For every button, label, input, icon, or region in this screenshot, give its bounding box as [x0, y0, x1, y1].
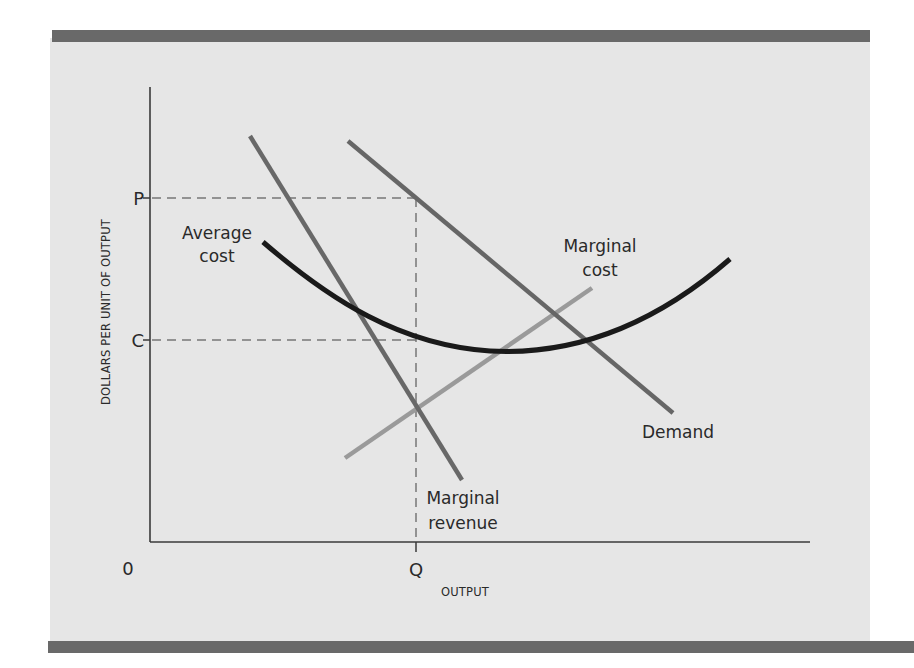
average-cost-label-line1: Average — [182, 223, 252, 243]
chart-panel-background — [50, 38, 870, 648]
economics-chart-figure: P C 0 Q OUTPUT DOLLARS PER UNIT OF OUTPU… — [0, 0, 914, 668]
x-tick-label-q: Q — [409, 559, 423, 580]
average-cost-label-line2: cost — [199, 246, 235, 266]
demand-label: Demand — [642, 422, 714, 442]
marginal-cost-label-line2: cost — [582, 260, 618, 280]
origin-label: 0 — [122, 558, 133, 579]
top-rule-bar — [52, 30, 870, 42]
marginal-cost-label-line1: Marginal — [563, 236, 636, 256]
bottom-rule-bar — [48, 641, 914, 653]
y-axis-title: DOLLARS PER UNIT OF OUTPUT — [99, 218, 113, 405]
marginal-revenue-label-line2: revenue — [428, 513, 498, 533]
y-tick-label-p: P — [133, 188, 144, 209]
y-tick-label-c: C — [131, 330, 144, 351]
marginal-revenue-label-line1: Marginal — [426, 488, 499, 508]
x-axis-title: OUTPUT — [441, 585, 490, 599]
